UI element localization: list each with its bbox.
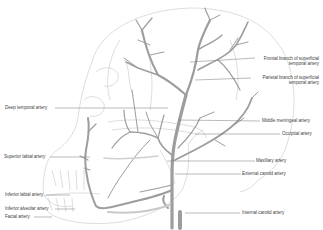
- label-line: Maxillary artery: [256, 158, 286, 163]
- label-line: Internal carotid artery: [242, 210, 284, 215]
- label-line: Deep temporal artery: [5, 105, 47, 110]
- label-line: Middle meningeal artery: [262, 118, 310, 123]
- label-inferior-alveolar: Inferior alveolar artery: [5, 206, 48, 211]
- label-occipital: Occipital artery: [282, 131, 312, 136]
- label-frontal-branch: Frontal branch of superficial temporal a…: [251, 56, 319, 66]
- label-inferior-labial: Inferior labial artery: [5, 192, 43, 197]
- label-line: Inferior alveolar artery: [5, 206, 48, 211]
- leader-frontal: [190, 58, 255, 62]
- label-internal-carotid: Internal carotid artery: [242, 210, 284, 215]
- label-middle-meningeal: Middle meningeal artery: [262, 118, 310, 123]
- label-external-carotid: External carotid artery: [242, 171, 286, 176]
- label-parietal-branch: Parietal branch of superficial temporal …: [251, 75, 319, 85]
- label-line: Inferior labial artery: [5, 192, 43, 197]
- label-line: Superior labial artery: [4, 154, 45, 159]
- label-line: temporal artery: [251, 80, 319, 85]
- label-facial: Facial artery: [5, 214, 30, 219]
- label-line: temporal artery: [251, 61, 319, 66]
- label-superior-labial: Superior labial artery: [4, 154, 45, 159]
- leader-parietal: [195, 78, 251, 80]
- label-line: External carotid artery: [242, 171, 286, 176]
- leader-middle-meningeal: [178, 120, 260, 121]
- label-deep-temporal: Deep temporal artery: [5, 105, 47, 110]
- label-line: Occipital artery: [282, 131, 312, 136]
- label-line: Facial artery: [5, 214, 30, 219]
- label-maxillary: Maxillary artery: [256, 158, 286, 163]
- artery-network: [80, 8, 258, 228]
- head-arteries-diagram: Frontal branch of superficial temporal a…: [0, 0, 323, 230]
- skull-artery-illustration: [0, 0, 323, 230]
